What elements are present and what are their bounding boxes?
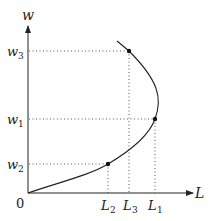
x-tick-l3: L 3	[122, 198, 138, 215]
svg-text:L: L	[122, 198, 132, 213]
svg-text:2: 2	[110, 205, 116, 215]
svg-text:1: 1	[18, 119, 24, 129]
point-l1-w1	[153, 117, 157, 121]
x-axis-label: L	[194, 185, 204, 201]
x-tick-l2: L 2	[100, 198, 116, 215]
svg-text:w: w	[7, 112, 18, 127]
y-tick-w2: w 2	[7, 157, 24, 174]
svg-text:3: 3	[132, 205, 138, 215]
svg-text:3: 3	[18, 51, 24, 61]
svg-text:1: 1	[157, 205, 163, 215]
svg-text:w: w	[7, 157, 18, 172]
svg-text:L: L	[100, 198, 110, 213]
y-tick-w3: w 3	[7, 44, 24, 61]
y-axis-label: w	[22, 7, 34, 23]
point-l2-w2	[106, 162, 110, 166]
supply-curve	[28, 41, 158, 193]
svg-text:2: 2	[18, 164, 24, 174]
point-l3-w3	[127, 49, 131, 53]
diagram-svg: w L 0 w 3 w 1 w 2 L 2 L 3 L 1	[0, 0, 209, 221]
y-tick-w1: w 1	[7, 112, 24, 129]
svg-text:L: L	[147, 198, 157, 213]
labor-supply-diagram: w L 0 w 3 w 1 w 2 L 2 L 3 L 1	[0, 0, 209, 221]
x-tick-l1: L 1	[147, 198, 163, 215]
svg-text:w: w	[7, 44, 18, 59]
origin-label: 0	[16, 196, 24, 211]
